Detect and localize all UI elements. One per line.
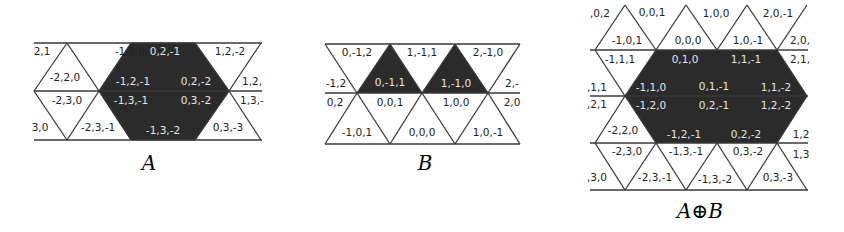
cell-label: 0,0,1 — [639, 6, 666, 18]
cell-label: 2,- — [505, 77, 519, 89]
cell-label: -1,0,1 — [612, 34, 643, 46]
cell-label: -1,2,0 — [636, 99, 667, 111]
cell-label: 1,2,-2 — [761, 99, 792, 111]
caption-a: A — [140, 151, 156, 175]
cell-label: 0,3,-2 — [181, 94, 212, 106]
cell-label: -2,3,-1 — [81, 121, 115, 133]
cell-label: 0,3,-3 — [213, 121, 244, 133]
cell-label: -1,2 — [326, 77, 347, 89]
cell-label: ,0,2 — [590, 7, 610, 19]
cell-label: 2,1 — [34, 45, 51, 57]
cell-label: 0,0,0 — [675, 34, 702, 46]
cell-label: -1,3,-2 — [698, 173, 732, 185]
cell-label: 1,2,-2 — [215, 45, 246, 57]
cell-label: 0,3,-3 — [763, 171, 794, 183]
cell-label: 1,1,-2 — [761, 81, 792, 93]
cell-label: 2,1, — [790, 53, 810, 65]
cell-label: -1,3,-2 — [146, 124, 180, 136]
figure-a-plus-b — [590, 5, 808, 190]
cell-label: 1,2, — [242, 75, 262, 87]
cell-label: 2,0 — [504, 96, 521, 108]
cell-label: 1,3,- — [240, 94, 264, 106]
cell-label: -1,2,0 — [115, 45, 146, 57]
caption-b: B — [417, 151, 433, 175]
cell-label: ,1,1 — [587, 81, 607, 93]
cell-label: -2,2,0 — [50, 71, 81, 83]
triangular-grid-figure: 2,1-1,2,00,2,-11,2,-2-2,2,0-1,2,-10,2,-2… — [0, 0, 844, 232]
cell-label: 0,2,-2 — [731, 128, 762, 140]
cell-label: 1,1,-1 — [731, 53, 762, 65]
cell-label: 0,2 — [327, 96, 344, 108]
cell-label: -1,2,-1 — [116, 75, 150, 87]
cell-label: -2,3,0 — [612, 145, 643, 157]
cell-label: 3,0 — [32, 121, 49, 133]
cell-label: 1,0,0 — [443, 96, 470, 108]
cell-label: 0,-1,2 — [342, 46, 373, 58]
cell-label: 0,0,0 — [409, 126, 436, 138]
cell-label: 0,0,1 — [377, 96, 404, 108]
cell-label: -1,2,-1 — [667, 128, 701, 140]
cell-label: 0,3,-2 — [733, 145, 764, 157]
cell-label: -1,1,1 — [605, 53, 636, 65]
cell-label: 1,0,0 — [703, 7, 730, 19]
cell-label: 0,1,0 — [672, 53, 699, 65]
cell-label: 2,0, — [790, 34, 810, 46]
cell-label: -1,3,-1 — [114, 94, 148, 106]
cell-label: ,2,1 — [587, 98, 607, 110]
cell-label: -1,3,-1 — [669, 145, 703, 157]
cell-label: -1,1,0 — [636, 81, 667, 93]
cell-label: -2,3,-1 — [638, 171, 672, 183]
caption-a-plus-b: A⊕B — [675, 199, 723, 223]
cell-label: 0,2,-2 — [181, 75, 212, 87]
cell-label: 1,3 — [793, 148, 810, 160]
cell-label: -2,2,0 — [608, 124, 639, 136]
cell-label: 0,2,-1 — [150, 45, 181, 57]
cell-label: 1,0,-1 — [473, 126, 504, 138]
cell-label: 2,0,-1 — [763, 7, 794, 19]
cell-label: -2,3,0 — [52, 94, 83, 106]
cell-label: 1,-1,1 — [407, 46, 438, 58]
cell-label: 2,-1,0 — [473, 46, 504, 58]
cell-label: 1,0,-1 — [733, 34, 764, 46]
cell-label: 0,-1,1 — [375, 76, 406, 88]
cell-label: -1,0,1 — [342, 126, 373, 138]
cell-label: 1,-1,0 — [441, 77, 472, 89]
cell-label: 1,2 — [793, 128, 810, 140]
cell-label: 0,1,-1 — [699, 80, 730, 92]
cell-label: 0,2,-1 — [699, 99, 730, 111]
cell-label: ,3,0 — [587, 171, 607, 183]
